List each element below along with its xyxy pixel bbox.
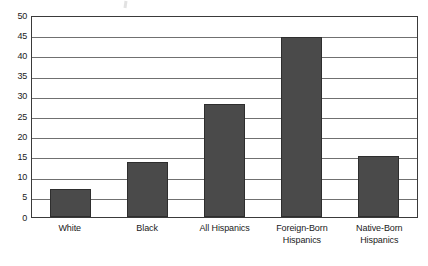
bar xyxy=(358,156,399,217)
plot-area xyxy=(31,16,418,218)
x-axis-tick-label-line1: Foreign-Born xyxy=(276,223,327,233)
y-axis-tick-label: 40 xyxy=(5,52,27,61)
x-axis-tick-label: All Hispanics xyxy=(186,222,263,234)
bar xyxy=(204,104,245,217)
y-axis: 50454035302520151050 xyxy=(0,0,27,266)
y-axis-tick-label: 25 xyxy=(5,113,27,122)
bars-layer xyxy=(32,17,417,217)
scan-artifact-speck xyxy=(124,1,128,8)
y-axis-tick-label: 30 xyxy=(5,92,27,101)
x-axis: WhiteBlackAll HispanicsForeign-BornHispa… xyxy=(31,222,418,266)
x-axis-tick-label-line1: All Hispanics xyxy=(199,223,249,233)
x-axis-tick-label: White xyxy=(31,222,108,234)
y-axis-tick-label: 45 xyxy=(5,32,27,41)
x-axis-tick-label-line1: White xyxy=(58,223,81,233)
bar xyxy=(127,162,168,217)
y-axis-tick-label: 35 xyxy=(5,72,27,81)
x-axis-tick-label: Native-BornHispanics xyxy=(341,222,418,246)
y-axis-tick-label: 20 xyxy=(5,133,27,142)
x-axis-tick-label-line2: Hispanics xyxy=(263,234,340,246)
x-axis-tick-label-line2: Hispanics xyxy=(341,234,418,246)
y-axis-tick-label: 15 xyxy=(5,153,27,162)
bar-chart: 50454035302520151050 WhiteBlackAll Hispa… xyxy=(0,0,428,266)
bar xyxy=(50,189,91,217)
x-axis-tick-label-line1: Native-Born xyxy=(356,223,402,233)
y-axis-tick-label: 0 xyxy=(5,214,27,223)
bar xyxy=(281,37,322,217)
x-axis-tick-label-line1: Black xyxy=(136,223,158,233)
y-axis-tick-label: 10 xyxy=(5,173,27,182)
x-axis-tick-label: Foreign-BornHispanics xyxy=(263,222,340,246)
y-axis-tick-label: 50 xyxy=(5,12,27,21)
y-axis-tick-label: 5 xyxy=(5,193,27,202)
x-axis-tick-label: Black xyxy=(108,222,185,234)
